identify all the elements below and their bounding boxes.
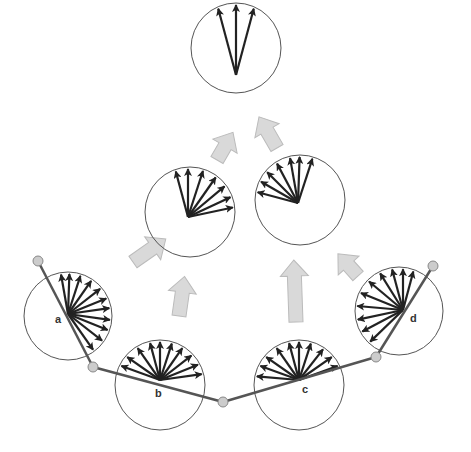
vector-circle-mid-right [255, 155, 345, 245]
vector-arrow-icon [176, 171, 188, 217]
flow-arrow-icon [247, 110, 289, 155]
circle-label-b: b [155, 387, 162, 399]
joint-node-icon [33, 256, 43, 266]
flow-arrow-icon [280, 260, 310, 323]
vector-arrow-icon [236, 9, 254, 75]
vector-circle-a: a [24, 272, 112, 360]
vector-circle-d: d [355, 267, 443, 355]
linkage-joints [33, 256, 438, 407]
joint-node-icon [428, 261, 438, 271]
circle-label-a: a [55, 313, 62, 325]
vector-circles: abcd [24, 3, 443, 430]
joint-node-icon [371, 352, 381, 362]
vector-arrow-icon [369, 282, 403, 310]
vector-circle-c: c [254, 340, 344, 430]
vector-arrow-icon [218, 9, 236, 75]
vector-circle-mid-left [145, 167, 235, 257]
flow-arrow-icon [205, 125, 245, 167]
circle-label-d: d [410, 312, 417, 324]
vector-field-diagram: abcd [0, 0, 471, 452]
flow-arrow-icon [165, 274, 198, 318]
linkage-segment [38, 261, 93, 367]
linkage-segments [38, 261, 433, 402]
circle-label-c: c [302, 383, 308, 395]
vector-circle-top [191, 3, 281, 93]
diagram-canvas: abcd [0, 0, 471, 452]
vector-arrow-icon [392, 270, 403, 310]
flow-arrows [125, 110, 368, 323]
joint-node-icon [218, 397, 228, 407]
flow-arrow-icon [328, 244, 369, 285]
joint-node-icon [88, 362, 98, 372]
